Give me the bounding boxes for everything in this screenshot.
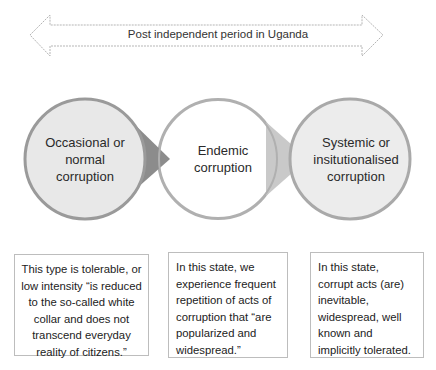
- title-line: corruption: [30, 168, 140, 185]
- title-line: Systemic or: [306, 134, 406, 151]
- description-endemic: In this state, we experience frequent re…: [168, 252, 288, 358]
- description-text: In this state, corrupt acts (are) inevit…: [318, 261, 411, 356]
- timeline-label: Post independent period in Uganda: [0, 28, 436, 40]
- stage-title-endemic: Endemic corruption: [178, 142, 268, 176]
- description-occasional: This type is tolerable, or low intensity…: [14, 254, 149, 356]
- description-systemic: In this state, corrupt acts (are) inevit…: [310, 252, 424, 358]
- title-line: insitutionalised: [306, 151, 406, 168]
- title-line: corruption: [306, 168, 406, 185]
- stage-title-occasional: Occasional or normal corruption: [30, 134, 140, 185]
- stage-title-systemic: Systemic or insitutionalised corruption: [306, 134, 406, 185]
- title-line: normal: [30, 151, 140, 168]
- title-line: Endemic: [178, 142, 268, 159]
- title-line: Occasional or: [30, 134, 140, 151]
- description-text: This type is tolerable, or low intensity…: [21, 263, 142, 358]
- description-text: In this state, we experience frequent re…: [176, 261, 276, 356]
- title-line: corruption: [178, 159, 268, 176]
